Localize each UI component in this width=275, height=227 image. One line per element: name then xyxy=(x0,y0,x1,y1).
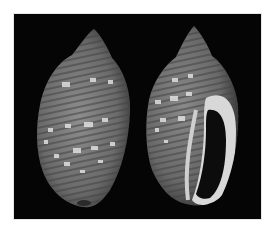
left-shell xyxy=(30,20,140,215)
shells-photo xyxy=(0,0,275,227)
right-shell xyxy=(140,20,250,215)
